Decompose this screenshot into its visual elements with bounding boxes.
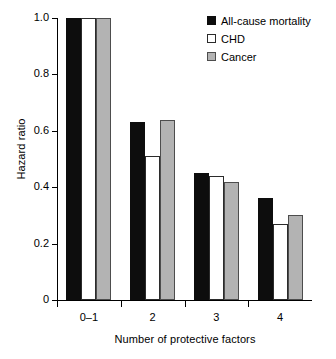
y-axis-line xyxy=(57,18,58,301)
legend-item-label: CHD xyxy=(221,33,245,45)
x-axis-tick-label: 3 xyxy=(186,311,246,323)
legend-swatch-icon xyxy=(207,34,216,43)
y-axis-tick-label: 0.6 xyxy=(9,125,49,136)
legend-swatch-icon xyxy=(207,16,216,25)
y-axis-tick-label: 1.0 xyxy=(9,12,49,23)
y-axis-tick-label: 0.8 xyxy=(9,68,49,79)
y-axis-tick xyxy=(52,74,58,75)
bar xyxy=(224,182,239,300)
x-axis-tick-label: 0–1 xyxy=(59,311,119,323)
bar xyxy=(258,198,273,300)
bar xyxy=(160,120,175,300)
bar xyxy=(209,176,224,300)
legend-item-label: All-cause mortality xyxy=(221,15,311,27)
chart-legend: All-cause mortalityCHDCancer xyxy=(207,12,311,66)
x-axis-tick-label: 2 xyxy=(123,311,183,323)
bar xyxy=(145,156,160,300)
bar xyxy=(288,215,303,300)
y-axis-title: Hazard ratio xyxy=(15,69,27,229)
x-axis-tick xyxy=(248,301,249,307)
legend-item: CHD xyxy=(207,30,311,47)
bar xyxy=(194,173,209,300)
y-axis-tick-label: 0 xyxy=(9,294,49,305)
x-axis-tick xyxy=(57,301,58,307)
bar xyxy=(130,122,145,300)
bar xyxy=(81,18,96,300)
x-axis-tick xyxy=(185,301,186,307)
legend-item-label: Cancer xyxy=(221,51,256,63)
bar xyxy=(273,224,288,300)
y-axis-tick-label: 0.2 xyxy=(9,238,49,249)
y-axis-tick xyxy=(52,131,58,132)
legend-swatch-icon xyxy=(207,52,216,61)
y-axis-tick xyxy=(52,18,58,19)
bar xyxy=(96,18,111,300)
y-axis-tick-label: 0.4 xyxy=(9,181,49,192)
y-axis-tick xyxy=(52,244,58,245)
x-axis-title: Number of protective factors xyxy=(57,333,313,345)
bar xyxy=(66,18,81,300)
legend-item: All-cause mortality xyxy=(207,12,311,29)
y-axis-tick xyxy=(52,187,58,188)
hazard-ratio-bar-chart: Hazard ratio 00.20.40.60.81.0 0–1234 Num… xyxy=(0,0,336,359)
x-axis-tick xyxy=(121,301,122,307)
legend-item: Cancer xyxy=(207,48,311,65)
x-axis-tick-label: 4 xyxy=(250,311,310,323)
